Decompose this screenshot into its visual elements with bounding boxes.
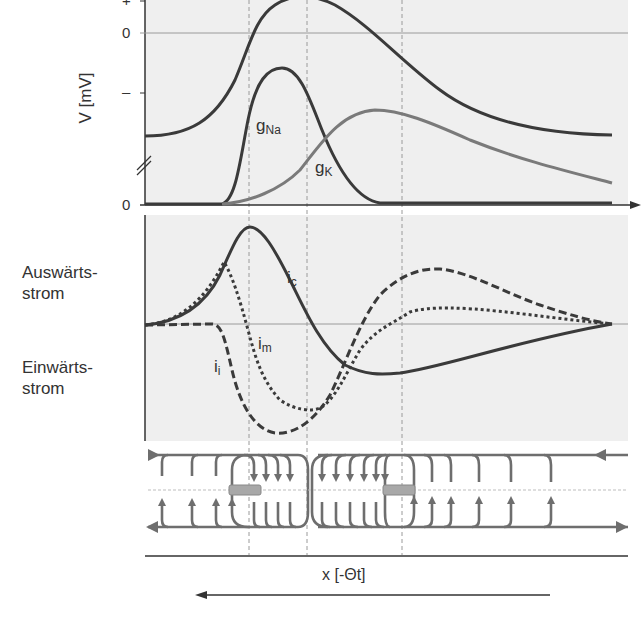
inward-current-label: Einwärts- strom	[22, 357, 93, 399]
top-panel-bg	[145, 0, 628, 205]
im-label: im	[258, 334, 272, 355]
top-left-arrow-icon	[148, 449, 160, 461]
node-right	[383, 485, 415, 495]
ic-label: ic	[287, 268, 297, 289]
y-tick-minus: –	[122, 83, 130, 100]
bottom-left-arrow-icon	[146, 521, 158, 533]
x-axis-label: x [-Θt]	[322, 566, 366, 584]
figure-canvas	[0, 0, 641, 623]
top-right-arrow-icon	[594, 449, 606, 461]
ii-label: ii	[214, 357, 220, 378]
gK-label: gK	[315, 158, 332, 179]
y-tick-g-zero: 0	[122, 196, 130, 213]
y-tick-plus: +	[122, 0, 131, 9]
y-tick-zero: 0	[122, 24, 130, 41]
x-axis-arrow-icon	[630, 201, 641, 209]
outward-current-label: Auswärts- strom	[22, 262, 98, 304]
node-left	[229, 485, 261, 495]
y-axis-label: V [mV]	[76, 72, 96, 123]
direction-arrow-icon	[195, 591, 207, 599]
gNa-label: gNa	[256, 116, 281, 137]
bottom-right-arrow-icon	[616, 521, 628, 533]
